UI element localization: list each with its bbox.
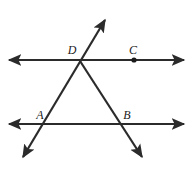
geometry-canvas: D C A B [0, 0, 193, 174]
point-label-d: D [67, 43, 77, 57]
point-label-a: A [35, 108, 44, 122]
geometry-diagram: D C A B [0, 0, 193, 174]
point-dot-c [131, 57, 136, 62]
point-label-b: B [123, 108, 131, 122]
point-label-c: C [129, 43, 138, 57]
point-markers-group [131, 57, 136, 62]
